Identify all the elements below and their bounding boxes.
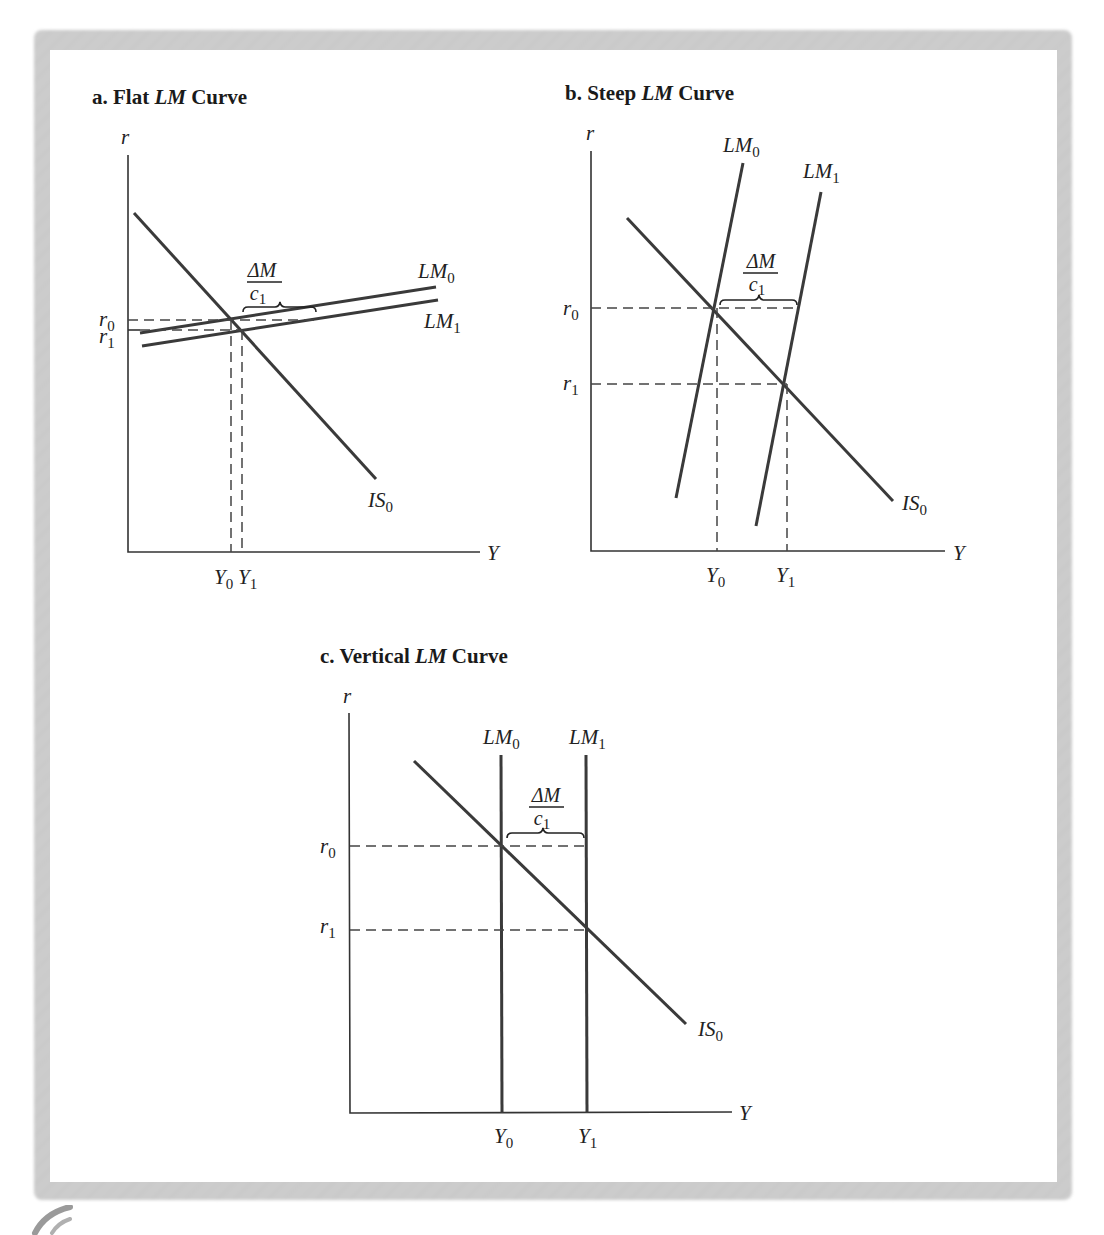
- panel-b-is-label: IS0: [901, 491, 927, 518]
- panel-b-y-axis-label: r: [586, 121, 595, 145]
- panel-c-vertical-lm: c. Vertical LM Curve r Y IS0 LM0 LM1 r0 …: [320, 644, 753, 1151]
- panel-a-lm1-label: LM1: [423, 309, 461, 336]
- panel-a-is-label: IS0: [367, 488, 393, 515]
- panel-b-x-axis-label: Y: [953, 541, 967, 565]
- panel-b-y0-label: Y0: [706, 563, 725, 590]
- panel-b-lm1-label: LM1: [802, 159, 840, 186]
- panel-b-title: b. Steep LM Curve: [565, 81, 734, 105]
- panel-a-delta-m: ΔM: [247, 259, 278, 281]
- panel-b-lm1-curve: [756, 192, 821, 526]
- panel-c-r1-label: r1: [320, 914, 336, 941]
- panel-c-is-label: IS0: [697, 1017, 723, 1044]
- panel-a-axes: [128, 155, 480, 552]
- panel-c-lm1-curve: [586, 755, 587, 1113]
- panel-a-y-axis-label: r: [121, 125, 130, 149]
- panel-a-c1: c1: [250, 282, 266, 307]
- panel-c-y0-label: Y0: [494, 1124, 513, 1151]
- panel-b-y1-label: Y1: [776, 563, 795, 590]
- panel-c-title: c. Vertical LM Curve: [320, 644, 508, 668]
- panel-b-r0-label: r0: [563, 296, 579, 323]
- panel-c-delta-m: ΔM: [531, 784, 562, 806]
- panel-a-is-curve: [134, 213, 376, 479]
- panel-a-lm0-curve: [140, 287, 436, 333]
- panel-a-title: a. Flat LM Curve: [92, 85, 247, 109]
- panel-a-x-axis-label: Y: [487, 541, 501, 565]
- panel-a-y0-label: Y0: [214, 565, 233, 592]
- panel-c-r0-label: r0: [320, 834, 336, 861]
- panel-c-x-axis-label: Y: [739, 1101, 753, 1125]
- panel-c-y-axis-label: r: [343, 684, 352, 708]
- panel-c-y1-label: Y1: [578, 1124, 597, 1151]
- panel-b-r1-label: r1: [563, 371, 579, 398]
- panel-b-steep-lm: b. Steep LM Curve r Y IS0 LM0 LM1 r0 r1 …: [563, 81, 967, 590]
- panel-c-axes: [349, 713, 732, 1113]
- panel-c-lm0-curve: [501, 755, 502, 1113]
- panel-b-delta-m: ΔM: [746, 250, 777, 272]
- panel-b-c1: c1: [749, 273, 765, 298]
- panel-c-lm0-label: LM0: [482, 725, 520, 752]
- panel-b-axes: [591, 151, 945, 551]
- panel-a-flat-lm: a. Flat LM Curve r Y IS0 LM0 LM1 r0 r1 Y…: [92, 85, 501, 592]
- panel-a-y1-label: Y1: [238, 565, 257, 592]
- panel-c-lm1-label: LM1: [568, 725, 606, 752]
- panel-b-lm0-label: LM0: [722, 133, 760, 160]
- panel-c-c1: c1: [534, 807, 550, 832]
- panel-a-lm0-label: LM0: [417, 259, 455, 286]
